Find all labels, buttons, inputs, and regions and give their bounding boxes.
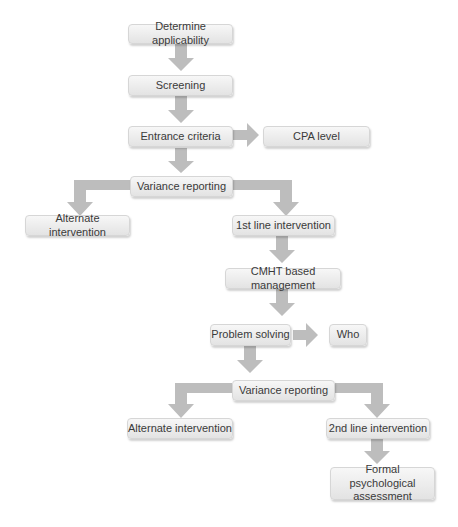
node-alternate-intervention-2: Alternate intervention	[127, 418, 233, 439]
arrow-down-icon	[364, 438, 390, 464]
node-variance-reporting-2: Variance reporting	[232, 380, 335, 401]
node-determine-applicability: Determine applicability	[128, 24, 233, 44]
arrow-right-icon	[293, 323, 318, 347]
node-label: Formal psychological assessment	[339, 463, 426, 504]
node-entrance-criteria: Entrance criteria	[128, 126, 233, 147]
node-label: 2nd line intervention	[329, 422, 427, 436]
arrow-down-icon	[168, 44, 194, 71]
arrow-right-icon	[232, 123, 259, 147]
node-label: Entrance criteria	[140, 130, 220, 144]
node-label: CPA level	[293, 130, 340, 144]
node-formal-psychological-assessment: Formal psychological assessment	[330, 467, 435, 500]
arrow-down-icon	[269, 236, 295, 263]
arrow-elbow-right-icon	[232, 180, 299, 216]
node-label: Variance reporting	[239, 384, 328, 398]
node-label: Variance reporting	[137, 180, 226, 194]
arrow-down-icon	[237, 346, 263, 373]
node-2nd-line-intervention: 2nd line intervention	[326, 418, 430, 439]
node-problem-solving: Problem solving	[210, 324, 291, 346]
node-cpa-level: CPA level	[263, 126, 370, 147]
arrow-down-icon	[269, 289, 295, 316]
arrow-elbow-left-icon	[168, 383, 232, 418]
node-label: Problem solving	[211, 328, 289, 342]
node-variance-reporting-1: Variance reporting	[130, 176, 233, 197]
arrow-down-icon	[168, 148, 194, 173]
node-cmht-based-management: CMHT based management	[225, 268, 341, 289]
node-screening: Screening	[128, 75, 233, 96]
node-label: Screening	[156, 79, 206, 93]
node-label: Determine applicability	[129, 20, 232, 48]
arrow-elbow-left-icon	[67, 180, 130, 216]
node-alternate-intervention-1: Alternate intervention	[25, 215, 130, 236]
node-label: 1st line intervention	[236, 219, 331, 233]
node-label: CMHT based management	[226, 265, 340, 293]
node-who: Who	[329, 324, 367, 346]
node-1st-line-intervention: 1st line intervention	[232, 215, 335, 236]
node-label: Alternate intervention	[128, 422, 232, 436]
arrow-elbow-right-icon	[335, 383, 390, 418]
arrow-down-icon	[168, 96, 194, 123]
node-label: Alternate intervention	[26, 212, 129, 240]
node-label: Who	[337, 328, 360, 342]
